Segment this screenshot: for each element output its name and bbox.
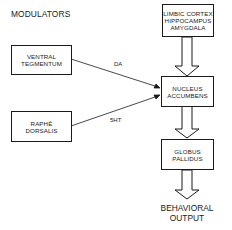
- behavioral-output-label: BEHAVIORAL OUTPUT: [150, 203, 224, 223]
- node-limbic-cortex: LIMBIC CORTEX HIPPOCAMPUS AMYGDALA: [162, 4, 214, 37]
- hollow-arrow-limbic-to-nucleus: [175, 37, 199, 76]
- edge-label-5ht: 5HT: [110, 117, 121, 123]
- node-globus-label: GLOBUS PALLIDUS: [172, 148, 202, 162]
- node-ventral-label: VENTRAL TEGMENTUM: [21, 53, 62, 67]
- node-nucleus-accumbens: NUCLEUS ACCUMBENS: [161, 76, 214, 107]
- hollow-arrow-globus-to-output: [175, 170, 199, 199]
- node-raphe-dorsalis: RAPHÉ DORSALIS: [11, 111, 72, 142]
- hollow-arrow-nucleus-to-globus: [175, 106, 199, 138]
- node-raphe-label: RAPHÉ DORSALIS: [25, 120, 57, 134]
- node-globus-pallidus: GLOBUS PALLIDUS: [161, 139, 214, 170]
- edge-label-da: DA: [114, 61, 122, 67]
- node-nucleus-label: NUCLEUS ACCUMBENS: [167, 85, 207, 99]
- node-limbic-label: LIMBIC CORTEX HIPPOCAMPUS AMYGDALA: [163, 10, 212, 31]
- modulators-title: MODULATORS: [11, 9, 70, 19]
- node-ventral-tegmentum: VENTRAL TEGMENTUM: [11, 45, 72, 75]
